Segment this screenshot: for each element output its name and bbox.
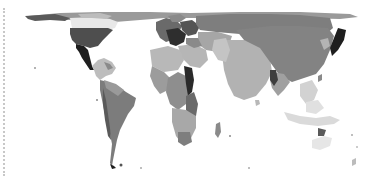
region-madagascar	[215, 122, 221, 138]
island-atlantic	[96, 99, 98, 101]
island-falklands	[120, 164, 123, 167]
island-pacific-1	[351, 134, 353, 136]
island-indian-ocean	[229, 135, 231, 137]
island-south-atlantic	[140, 167, 142, 169]
region-taiwan	[318, 74, 322, 82]
island-pacific-2	[356, 146, 358, 148]
region-mexico	[76, 44, 94, 70]
region-south-africa	[178, 132, 192, 146]
region-png	[318, 128, 326, 136]
region-new-zealand	[352, 158, 356, 166]
world-cartogram-map	[0, 0, 377, 178]
island-kerguelen	[248, 167, 250, 169]
region-central-america	[92, 58, 116, 80]
region-tierra-del-fuego	[110, 164, 116, 169]
region-borneo	[306, 100, 324, 114]
region-sri-lanka	[255, 100, 260, 106]
map-frame	[0, 0, 377, 178]
region-japan	[330, 28, 346, 56]
region-indonesia	[284, 112, 340, 126]
island-hawaii	[34, 67, 36, 69]
region-australia	[312, 136, 332, 150]
region-philippines	[300, 80, 318, 104]
